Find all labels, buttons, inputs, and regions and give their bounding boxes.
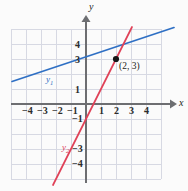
- y-tick-label-1: 1: [75, 85, 80, 95]
- y-tick-label-neg1: −1: [72, 114, 83, 124]
- y-axis-label: y: [89, 2, 93, 12]
- y-tick-label-neg4: −4: [72, 159, 83, 169]
- curve-label-y2-sub: 2: [66, 147, 69, 154]
- curve-label-y1: y1: [46, 75, 53, 86]
- x-tick-label-neg3: −3: [37, 106, 48, 116]
- line-y2: [53, 27, 132, 185]
- x-tick-label-2: 2: [114, 106, 119, 116]
- y-tick-label-neg3: −3: [72, 144, 83, 154]
- x-tick-label-4: 4: [144, 106, 149, 116]
- curve-label-y1-sub: 1: [50, 79, 53, 86]
- x-axis-arrow: [170, 100, 177, 109]
- x-tick-label-neg2: −2: [52, 106, 63, 116]
- y-tick-label-4: 4: [75, 40, 80, 50]
- coordinate-plane: [0, 0, 188, 191]
- graph-figure: x y −4 −3 −2 −1 1 2 3 4 4 3 1 −1 −3 −4 y…: [0, 0, 188, 191]
- y-axis-arrow: [82, 15, 91, 22]
- y-axis: [82, 15, 91, 183]
- x-tick-label-neg4: −4: [22, 106, 33, 116]
- x-tick-label-1: 1: [99, 106, 104, 116]
- intersection-point-label: (2, 3): [119, 62, 140, 72]
- line-y1: [12, 28, 174, 82]
- curve-label-y2: y2: [62, 143, 69, 154]
- x-tick-label-3: 3: [129, 106, 134, 116]
- y-tick-label-3: 3: [75, 55, 80, 65]
- x-axis-label: x: [179, 98, 183, 108]
